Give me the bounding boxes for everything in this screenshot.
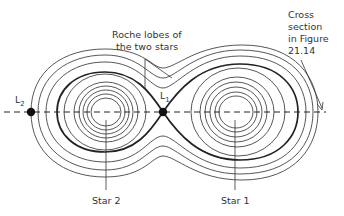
cross-section-label-line3: in Figure <box>288 33 329 44</box>
l2-label: L2 <box>15 94 25 107</box>
star2-label: Star 2 <box>92 195 121 206</box>
roche-lobes-label-line1: Roche lobes of <box>112 29 182 40</box>
l2-point <box>27 108 35 116</box>
l1-label: L1 <box>160 90 170 103</box>
cross-section-label-line4: 21.14 <box>288 45 315 56</box>
cross-section-label-line1: Cross <box>288 9 314 20</box>
roche-lobes-pointer-2 <box>145 59 172 78</box>
l1-point <box>159 108 167 116</box>
cross-section-label-line2: section <box>288 21 322 32</box>
cross-section-pointer <box>301 60 322 108</box>
star1-label: Star 1 <box>221 195 250 206</box>
roche-lobes-label-line2: the two stars <box>116 41 178 52</box>
